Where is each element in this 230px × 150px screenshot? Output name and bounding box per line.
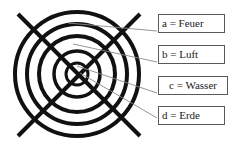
legend-item-d: d = Erde (158, 106, 225, 125)
leader-line-c (77, 66, 157, 93)
cross-lines-group (18, 14, 140, 136)
legend-item-c: c = Wasser (158, 76, 228, 95)
legend-item-a: a = Feuer (158, 14, 225, 33)
legend: a = Feuer b = Luft c = Wasser d = Erde (158, 0, 230, 150)
figure-canvas: a = Feuer b = Luft c = Wasser d = Erde (0, 0, 230, 150)
legend-item-b: b = Luft (158, 45, 225, 64)
